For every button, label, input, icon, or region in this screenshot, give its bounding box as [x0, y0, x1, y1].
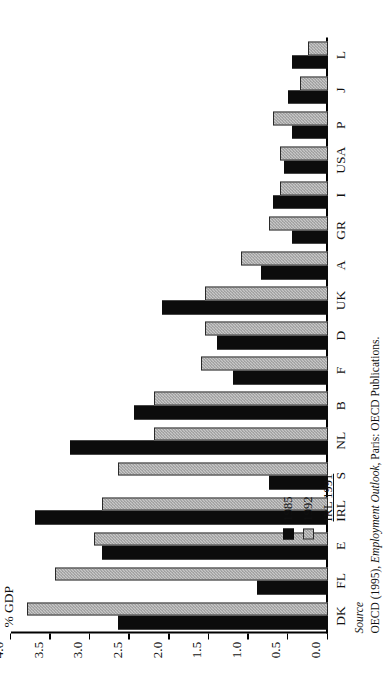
bar-USA-1992 [280, 146, 328, 160]
bar-group: USA [11, 146, 328, 173]
value-axis-tick-label: 2.0 [150, 641, 163, 685]
bar-group: FL [11, 567, 328, 594]
value-axis-tick-label: 0.5 [269, 641, 282, 685]
value-axis-tick-label: 1.0 [229, 641, 242, 685]
bar-F-1992 [201, 356, 328, 370]
bar-FL-1985 [257, 580, 328, 594]
category-label-L: L [334, 50, 348, 58]
value-axis-tick [49, 633, 50, 639]
legend-label: 1985 [282, 496, 295, 521]
legend-label: IRL 1991 [322, 473, 335, 521]
value-axis-tick [287, 633, 288, 639]
source-heading: Source [352, 336, 368, 633]
source-prefix: OECD (1995), [369, 562, 381, 633]
category-label-DK: DK [334, 606, 348, 626]
bar-J-1992 [300, 76, 328, 90]
category-label-P: P [334, 121, 348, 129]
legend-item-1992: 1992 [300, 473, 316, 539]
bar-group: A [11, 251, 328, 278]
category-label-F: F [334, 366, 348, 374]
bar-GR-1985 [292, 230, 328, 244]
value-axis-tick-label: 3.5 [31, 641, 44, 685]
chart-legend: 19851992IRL 1991 [280, 473, 340, 539]
bar-B-1985 [134, 405, 328, 419]
category-label-B: B [334, 401, 348, 410]
bar-DK-1992 [27, 602, 328, 616]
bar-A-1985 [261, 265, 328, 279]
bar-group: B [11, 391, 328, 418]
bar-group: P [11, 111, 328, 138]
bar-I-1992 [280, 181, 328, 195]
value-axis-line [11, 631, 328, 633]
bar-UK-1992 [205, 286, 328, 300]
value-axis-tick-label: 1.5 [190, 641, 203, 685]
bar-group: UK [11, 286, 328, 313]
bar-group: DK [11, 602, 328, 629]
bar-USA-1985 [284, 160, 328, 174]
category-label-GR: GR [334, 220, 348, 239]
legend-label: 1992 [302, 496, 315, 521]
value-axis-tick [208, 633, 209, 639]
value-axis-tick [10, 633, 11, 639]
bar-I-1985 [273, 195, 328, 209]
bar-group: F [11, 356, 328, 383]
bar-NL-1985 [70, 440, 328, 454]
legend-swatch-icon [303, 528, 314, 539]
bar-NL-1992 [154, 427, 328, 441]
legend-swatch-icon [323, 528, 334, 539]
category-label-UK: UK [334, 290, 348, 310]
bar-L-1992 [308, 41, 328, 55]
bar-DK-1985 [118, 615, 328, 629]
value-axis-tick-label: 2.5 [110, 641, 123, 685]
bar-J-1985 [288, 90, 328, 104]
value-axis-tick [327, 633, 328, 639]
bar-D-1992 [205, 321, 328, 335]
source-citation: OECD (1995), Employment Outlook, Paris: … [368, 336, 384, 633]
category-label-I: I [334, 193, 348, 198]
bar-UK-1985 [162, 300, 328, 314]
legend-item-1985: 1985 [280, 473, 296, 539]
bar-group: L [11, 41, 328, 68]
bar-group: GR [11, 216, 328, 243]
category-label-E: E [334, 541, 348, 549]
category-label-D: D [334, 330, 348, 340]
value-axis-tick [89, 633, 90, 639]
value-axis-tick-label: 0.0 [309, 641, 322, 685]
value-axis-tick-label: 4.0 [0, 641, 5, 685]
plot-area: 4.03.53.02.52.01.51.00.50.0 DKFLEIRLSNLB… [11, 37, 328, 633]
category-label-NL: NL [334, 431, 348, 449]
bar-group: D [11, 321, 328, 348]
category-label-FL: FL [334, 573, 348, 589]
bar-FL-1992 [55, 567, 328, 581]
source-title: Employment Outlook [369, 465, 381, 562]
value-axis-tick-label: 3.0 [71, 641, 84, 685]
bar-B-1992 [154, 391, 328, 405]
value-axis-tick [128, 633, 129, 639]
legend-swatch-icon [283, 528, 294, 539]
bar-group: I [11, 181, 328, 208]
source-note: Source OECD (1995), Employment Outlook, … [352, 336, 383, 633]
chart-stage: % GDP 4.03.53.02.52.01.51.00.50.0 DKFLEI… [0, 0, 386, 689]
category-label-USA: USA [334, 146, 348, 173]
source-suffix: , Paris: OECD Publications. [369, 336, 381, 465]
category-label-A: A [334, 260, 348, 270]
legend-item-irl-1991: IRL 1991 [320, 473, 336, 539]
bar-group: NL [11, 427, 328, 454]
bar-F-1985 [233, 370, 328, 384]
bar-P-1985 [292, 125, 328, 139]
bar-L-1985 [292, 55, 328, 69]
bar-group: J [11, 76, 328, 103]
value-axis-tick [168, 633, 169, 639]
bar-E-1985 [102, 545, 328, 559]
category-label-J: J [334, 87, 348, 92]
bar-GR-1992 [269, 216, 328, 230]
bar-D-1985 [217, 335, 328, 349]
bar-A-1992 [241, 251, 328, 265]
value-axis-tick [247, 633, 248, 639]
bar-P-1992 [273, 111, 328, 125]
